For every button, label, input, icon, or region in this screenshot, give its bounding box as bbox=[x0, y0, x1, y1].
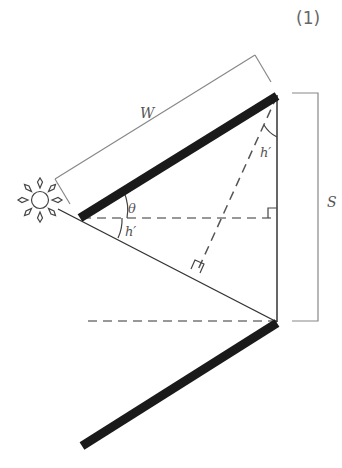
spacing-dimension-bracket bbox=[292, 93, 318, 321]
width-label: W bbox=[140, 105, 156, 121]
upper-solar-panel bbox=[80, 96, 277, 218]
spacing-label: S bbox=[327, 194, 337, 210]
sun-icon bbox=[18, 178, 62, 222]
upper-h-prime-angle-arc bbox=[264, 125, 277, 137]
upper-h-prime-label: h′ bbox=[260, 145, 271, 160]
theta-label: θ bbox=[128, 201, 136, 216]
sun-ray-line bbox=[58, 209, 277, 322]
lower-h-prime-angle-arc bbox=[118, 218, 122, 238]
lower-h-prime-label: h′ bbox=[125, 224, 136, 239]
lower-solar-panel bbox=[82, 323, 277, 446]
solar-panel-spacing-diagram: (1) W S θ h′ h′ bbox=[0, 0, 342, 468]
figure-number: (1) bbox=[296, 8, 320, 28]
right-angle-marker-vertical bbox=[268, 208, 277, 218]
